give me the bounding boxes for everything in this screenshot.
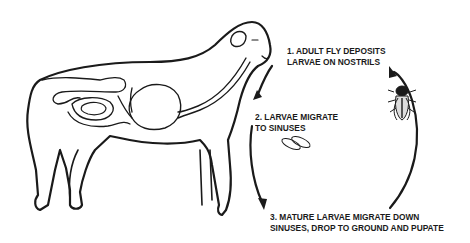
step-1-line-1: 1. ADULT FLY DEPOSITS bbox=[287, 45, 385, 56]
step-1-label: 1. ADULT FLY DEPOSITS LARVAE ON NOSTRILS bbox=[287, 45, 385, 67]
sheep-illustration bbox=[27, 22, 270, 215]
step-2-line-2: TO SINUSES bbox=[255, 122, 338, 133]
arrowheads bbox=[253, 66, 397, 210]
step-2-line-1: 2. LARVAE MIGRATE bbox=[255, 111, 338, 122]
larvae-icon bbox=[280, 131, 311, 156]
arrowhead-down-1 bbox=[253, 90, 262, 100]
arrowhead-down-2 bbox=[258, 198, 267, 210]
step-3-label: 3. MATURE LARVAE MIGRATE DOWN SINUSES, D… bbox=[270, 211, 444, 233]
step-1-line-2: LARVAE ON NOSTRILS bbox=[287, 56, 385, 67]
step-3-line-1: 3. MATURE LARVAE MIGRATE DOWN bbox=[270, 211, 444, 222]
cycle-arrow-icon bbox=[250, 66, 417, 208]
step-3-line-2: SINUSES, DROP TO GROUND AND PUPATE bbox=[270, 222, 444, 233]
diagram-canvas bbox=[0, 0, 470, 243]
step-2-label: 2. LARVAE MIGRATE TO SINUSES bbox=[255, 111, 338, 133]
